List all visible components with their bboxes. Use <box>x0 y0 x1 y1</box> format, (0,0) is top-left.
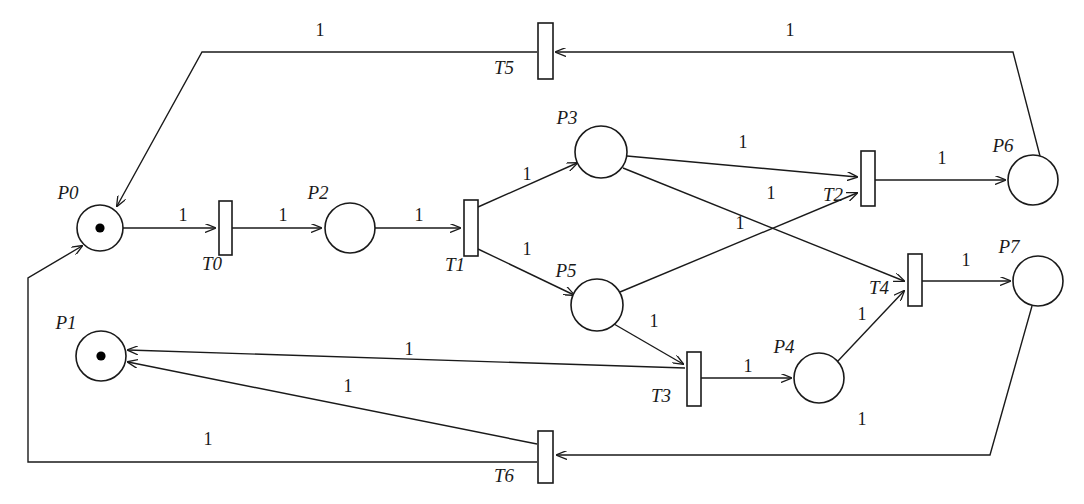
arc-weight-label: 1 <box>736 213 745 233</box>
arc-weight-label: 1 <box>650 311 659 331</box>
token-dot-p1 <box>96 351 105 360</box>
transition-t3[interactable] <box>687 352 701 406</box>
arc-weight-label: 1 <box>523 239 532 259</box>
place-p4[interactable] <box>794 353 844 403</box>
arc-weight-label: 1 <box>786 20 795 40</box>
arc-weight-label: 1 <box>316 20 325 40</box>
arc-weight-label: 1 <box>858 304 867 324</box>
transition-label-t1: T1 <box>445 254 465 275</box>
transition-t4[interactable] <box>908 254 922 306</box>
place-label-p1: P1 <box>54 312 76 333</box>
arc-t6-to-p1 <box>128 362 537 444</box>
place-label-p2: P2 <box>306 182 329 203</box>
arc-weight-label: 1 <box>179 205 188 225</box>
place-label-p0: P0 <box>56 182 79 203</box>
arc-weight-label: 1 <box>523 164 532 184</box>
arc-weight-label: 1 <box>744 356 753 376</box>
transition-label-t3: T3 <box>651 385 671 406</box>
transition-t2[interactable] <box>861 151 875 206</box>
arc-p4-to-t4 <box>837 291 904 362</box>
arc-weight-label: 1 <box>962 250 971 270</box>
transition-label-t0: T0 <box>202 253 223 274</box>
arc-weight-label: 1 <box>344 376 353 396</box>
arcs-layer <box>28 52 1040 462</box>
transition-label-t2: T2 <box>823 184 844 205</box>
petri-net-diagram: 1111111111111111111T0T1T2T3T4T5T6P0P1P2P… <box>0 0 1084 504</box>
transition-t0[interactable] <box>219 201 232 255</box>
petri-net-canvas: 1111111111111111111T0T1T2T3T4T5T6P0P1P2P… <box>0 0 1084 504</box>
place-p7[interactable] <box>1013 256 1063 306</box>
arc-weight-label: 1 <box>279 205 288 225</box>
place-label-p4: P4 <box>772 336 795 357</box>
arc-weight-label: 1 <box>739 132 748 152</box>
place-label-p6: P6 <box>991 135 1014 156</box>
arc-weight-label: 1 <box>767 183 776 203</box>
transitions-layer <box>219 23 922 483</box>
arc-weight-label: 1 <box>204 429 213 449</box>
place-p6[interactable] <box>1008 155 1058 205</box>
arc-p5-to-t3 <box>614 324 683 364</box>
place-label-p3: P3 <box>555 107 577 128</box>
transition-t5[interactable] <box>538 23 553 79</box>
transition-label-t6: T6 <box>494 465 515 486</box>
transition-label-t5: T5 <box>494 57 514 78</box>
place-p3[interactable] <box>575 126 627 178</box>
arc-p3-to-t2 <box>627 156 857 177</box>
place-p2[interactable] <box>325 203 375 253</box>
place-p5[interactable] <box>571 279 623 331</box>
arc-weight-label: 1 <box>405 339 414 359</box>
arc-p5-to-t2 <box>620 193 857 292</box>
arc-weight-label: 1 <box>415 205 424 225</box>
labels-layer: 1111111111111111111T0T1T2T3T4T5T6P0P1P2P… <box>54 20 1021 486</box>
place-label-p7: P7 <box>997 236 1021 257</box>
token-dot-p0 <box>95 223 104 232</box>
transition-t1[interactable] <box>464 200 478 256</box>
place-label-p5: P5 <box>554 260 576 281</box>
transition-label-t4: T4 <box>869 277 890 298</box>
arc-p6-to-t5 <box>556 52 1040 156</box>
arc-weight-label: 1 <box>858 409 867 429</box>
transition-t6[interactable] <box>538 431 553 483</box>
arc-weight-label: 1 <box>938 148 947 168</box>
